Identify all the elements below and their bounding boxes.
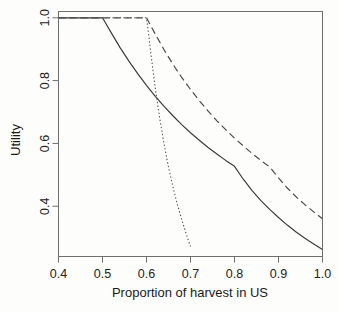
x-tick-label: 0.4 [50,267,67,281]
x-axis-title: Proportion of harvest in US [112,285,268,300]
chart-background [0,0,339,312]
y-tick-label: 0.8 [38,72,52,89]
x-tick-label: 0.7 [182,267,199,281]
y-tick-label: 0.4 [38,198,52,215]
utility-line-chart: 0.40.50.60.70.80.91.0 0.40.60.81.0 Propo… [0,0,339,312]
x-tick-label: 0.8 [226,267,243,281]
x-tick-label: 0.9 [270,267,287,281]
y-tick-label: 0.6 [38,135,52,152]
x-tick-label: 0.6 [138,267,155,281]
y-tick-label: 1.0 [38,9,52,26]
x-tick-label: 0.5 [94,267,111,281]
figure-container: 0.40.50.60.70.80.91.0 0.40.60.81.0 Propo… [0,0,339,312]
y-axis-title: Utility [8,124,23,156]
x-tick-label: 1.0 [314,267,331,281]
